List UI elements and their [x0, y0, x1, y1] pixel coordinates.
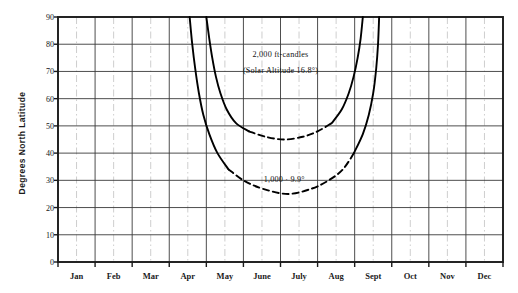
x-tick-label-mar: Mar: [143, 271, 159, 281]
x-tick-label-july: July: [291, 271, 307, 281]
x-axis-tick-labels: JanFebMarAprMayJuneJulyAugSeptOctNovDec: [0, 0, 518, 293]
x-tick-label-feb: Feb: [107, 271, 121, 281]
x-tick-label-apr: Apr: [180, 271, 195, 281]
x-tick-label-jan: Jan: [70, 271, 83, 281]
annot-2000-line2: (Solar Altitude 16.8°): [243, 66, 318, 75]
x-tick-label-nov: Nov: [440, 271, 455, 281]
x-tick-label-may: May: [217, 271, 234, 281]
chart-container: Degrees North Latitude 01020304050607080…: [0, 0, 518, 293]
annot-2000-line1: 2,000 ft-candles: [253, 50, 309, 59]
x-tick-label-aug: Aug: [329, 271, 344, 281]
x-tick-label-dec: Dec: [478, 271, 492, 281]
x-tick-label-june: June: [253, 271, 270, 281]
annot-1000: 1,000 · 9.9°: [264, 175, 305, 184]
x-tick-label-sept: Sept: [365, 271, 381, 281]
x-tick-label-oct: Oct: [404, 271, 417, 281]
